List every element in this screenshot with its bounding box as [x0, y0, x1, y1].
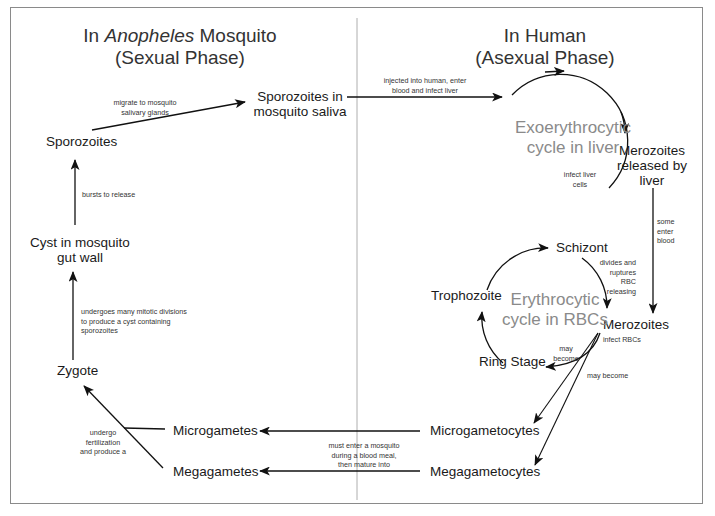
edge-label-must-enter: must enter a mosquito during a blood mea…: [316, 441, 412, 470]
liver-cycle-arrow-top: [545, 71, 564, 72]
edge-label-infect-liver: infect liver cells: [555, 170, 605, 189]
edge-label-some-enter: some enter blood: [657, 217, 675, 246]
node-cyst: Cyst in mosquito gut wall: [30, 235, 130, 265]
edge-label-mitotic: undergoes many mitotic divisions to prod…: [81, 307, 187, 336]
node-ring-stage: Ring Stage: [479, 354, 546, 369]
node-microgametes: Microgametes: [173, 423, 258, 438]
edge-label-may-become: may become: [587, 371, 628, 381]
edge-label-bursts: bursts to release: [82, 190, 135, 200]
title-mosquito: In Anopheles Mosquito (Sexual Phase): [80, 25, 280, 70]
label-liver-cycle: Exoerythrocytic cycle in liver: [508, 118, 638, 157]
edge-label-divides: divides and ruptures RBC releasing: [590, 258, 636, 297]
node-zygote: Zygote: [57, 363, 98, 378]
edge-label-injected: injected into human, enter blood and inf…: [370, 76, 480, 95]
edge-label-may-become-ring: may become: [548, 344, 584, 363]
node-megagametes: Megagametes: [173, 464, 259, 479]
node-microgametocytes: Microgametocytes: [430, 423, 540, 438]
node-megagametocytes: Megagametocytes: [430, 464, 540, 479]
node-sporozoites-saliva: Sporozoites in mosquito saliva: [250, 89, 350, 119]
node-schizont: Schizont: [556, 240, 608, 255]
node-merozoites: Merozoites: [603, 317, 669, 332]
arc-troph-to-schizont: [487, 248, 548, 290]
title-human: In Human (Asexual Phase): [460, 25, 630, 70]
edge-label-infect-rbcs: infect RBCs: [603, 335, 641, 345]
node-sporozoites: Sporozoites: [46, 134, 117, 149]
edge-label-migrate: migrate to mosquito salivary glands: [95, 98, 195, 117]
edge-label-fertilization: undergo fertilization and produce a: [73, 428, 133, 457]
node-trophozoite: Trophozoite: [431, 288, 502, 303]
